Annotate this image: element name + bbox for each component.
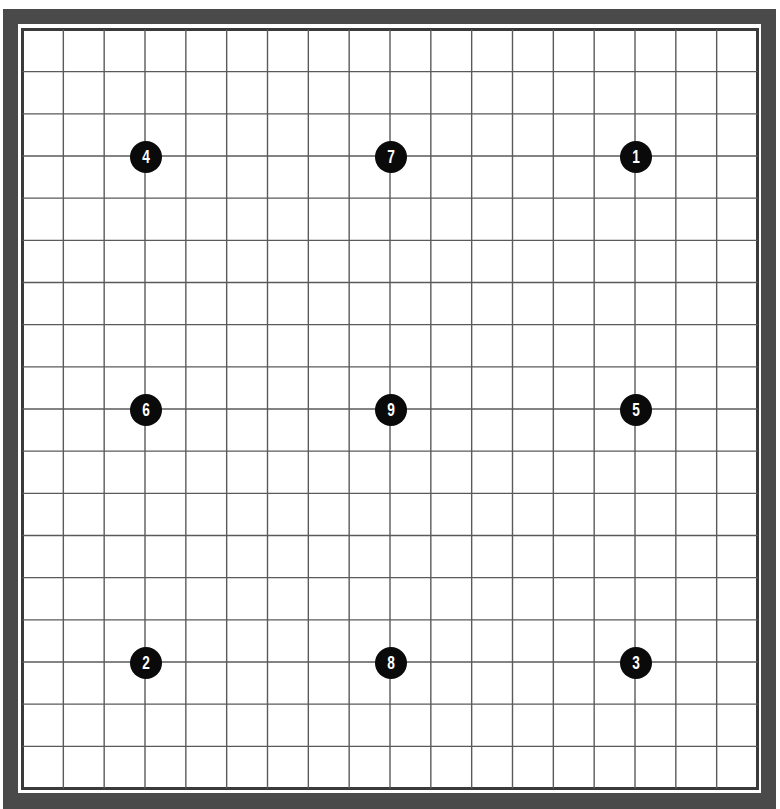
stone-3[interactable]: 3	[620, 647, 652, 679]
stone-move-number: 8	[387, 652, 395, 674]
stone-8[interactable]: 8	[375, 647, 407, 679]
stone-6[interactable]: 6	[130, 394, 162, 426]
stone-move-number: 5	[632, 399, 640, 421]
stone-move-number: 1	[632, 146, 640, 168]
stone-move-number: 6	[142, 399, 150, 421]
go-board-canvas: 123456789	[0, 0, 780, 809]
go-board: 123456789	[0, 0, 780, 809]
stone-1[interactable]: 1	[620, 141, 652, 173]
stone-2[interactable]: 2	[130, 647, 162, 679]
stone-4[interactable]: 4	[130, 141, 162, 173]
stone-7[interactable]: 7	[375, 141, 407, 173]
stone-move-number: 3	[632, 652, 640, 674]
stone-9[interactable]: 9	[375, 394, 407, 426]
stone-move-number: 7	[387, 146, 395, 168]
stone-move-number: 4	[142, 146, 150, 168]
stone-5[interactable]: 5	[620, 394, 652, 426]
stone-move-number: 2	[142, 652, 150, 674]
stone-move-number: 9	[387, 399, 395, 421]
